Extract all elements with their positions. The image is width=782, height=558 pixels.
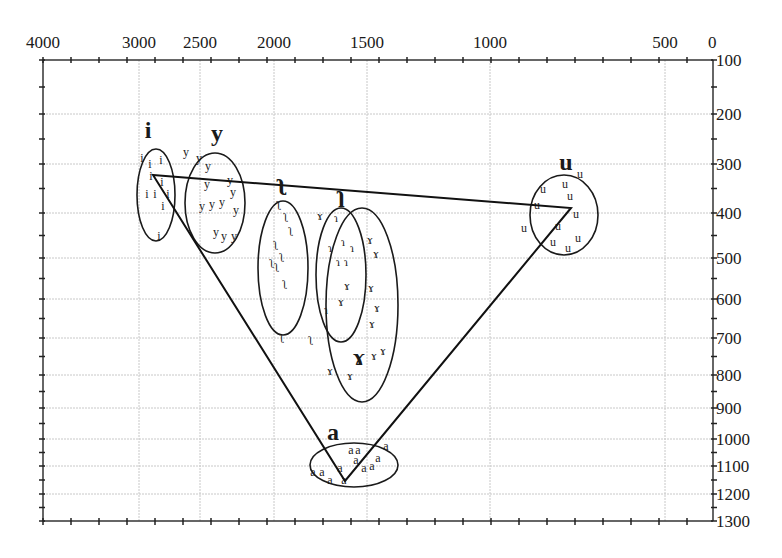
vowel-token: ɤ [327,364,333,378]
vowel-token: i [145,187,149,201]
ellipse-ɿ [316,208,366,342]
vowel-token: i [161,199,165,213]
vowel-token: a [369,459,375,473]
vowel-token: ɤ [338,295,344,309]
y-tick-label: 500 [716,249,742,268]
vowel-tokens: iiiiiiiiiiyyyyyyyyyyyyyʅʅʅʅʅʅʅʅʅʅɿɿɿɿɿɿɿ… [140,145,583,487]
vowel-label: i [145,117,152,143]
vowel-label: y [211,120,223,146]
vowel-token: i [159,153,163,167]
vowel-token: y [221,229,227,243]
vowel-token: ɤ [371,349,377,363]
y-tick-label: 100 [716,51,742,70]
y-tick-label: 1200 [716,485,750,504]
vowel-token: u [565,241,571,255]
vowel-token: ɿ [336,255,340,269]
vowel-label: ɿ [335,181,345,207]
y-tick-label: 600 [716,290,742,309]
vowel-token: ɤ [367,233,373,247]
vowel-token: ʅ [272,239,278,253]
vowel-token: y [183,145,189,159]
vowel-space-triangle [153,175,571,481]
vowel-token: y [219,195,225,209]
chart-canvas: 4000300025002000150010005000100200300400… [0,0,782,558]
x-tick-label: 3000 [122,33,156,52]
vowel-token: a [319,465,325,479]
vowel-token: a [361,461,367,475]
vowel-token: ɤ [344,279,350,293]
y-tick-label: 300 [716,155,742,174]
vowel-token: ɿ [350,241,354,255]
vowel-label: ɤ [353,344,365,370]
vowel-token: ɿ [341,235,345,249]
vowel-token: y [199,199,205,213]
vowel-token: i [153,187,157,201]
vowel-token: ɿ [344,255,348,269]
axis-ticks: 4000300025002000150010005000100200300400… [26,33,750,531]
vowel-token: ʅ [307,334,313,348]
x-tick-label: 500 [652,33,678,52]
vowel-token: a [375,451,381,465]
vowel-token: ɤ [380,344,386,358]
vowel-token: u [567,189,573,203]
vowel-token: ʅ [287,225,293,239]
vowel-token: ɤ [373,247,379,261]
y-tick-label: 900 [716,399,742,418]
y-tick-label: 200 [716,105,742,124]
y-tick-label: 400 [716,204,742,223]
vowel-label: a [327,419,339,445]
vowel-formant-chart: 4000300025002000150010005000100200300400… [0,0,782,558]
vowel-token: y [205,159,211,173]
vowel-token: y [209,197,215,211]
vowel-label: ʅ [276,169,287,195]
vowel-token: ɤ [317,209,323,223]
vowel-token: u [550,235,556,249]
vowel-token: ɤ [374,301,380,315]
vowel-token: ɤ [369,317,375,331]
vowel-token: y [233,203,239,217]
y-tick-label: 700 [716,329,742,348]
y-tick-label: 1300 [716,512,750,531]
vowel-token: ʅ [281,278,287,292]
x-tick-label: 2500 [183,33,217,52]
x-tick-label: 4000 [26,33,60,52]
y-tick-label: 1100 [716,457,749,476]
vowel-token: u [521,221,527,235]
vowel-token: u [573,207,579,221]
x-tick-label: 2000 [257,33,291,52]
vowel-token: ʅ [268,257,274,271]
x-tick-label: 0 [708,33,717,52]
y-tick-label: 800 [716,366,742,385]
vowel-token: ɿ [334,211,338,225]
vowel-token: ɤ [347,369,353,383]
vowel-label: u [559,149,572,175]
x-tick-label: 1000 [473,33,507,52]
vowel-token: u [575,231,581,245]
vowel-token: y [230,185,236,199]
vowel-token: y [213,225,219,239]
vowel-token: ɤ [368,281,374,295]
vowel-token: ʅ [282,211,288,225]
y-tick-label: 1000 [716,430,750,449]
vowel-triangle [153,175,571,481]
x-tick-label: 1500 [350,33,384,52]
